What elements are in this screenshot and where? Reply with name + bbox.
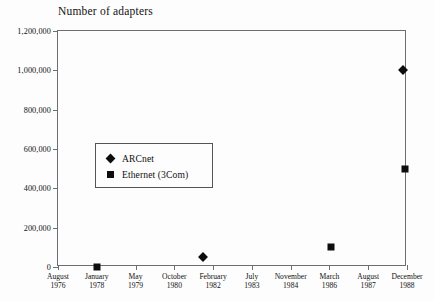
- x-axis-tick-month: March: [320, 272, 340, 281]
- y-axis-tick: [53, 70, 58, 71]
- x-axis-tick-label: August1976: [47, 272, 69, 290]
- x-axis-tick: [136, 265, 137, 270]
- legend-item-label: Ethernet (3Com): [122, 169, 188, 180]
- x-axis-tick-year: 1976: [47, 281, 69, 290]
- x-axis-tick-year: 1988: [391, 281, 422, 290]
- legend-item-ethernet: Ethernet (3Com): [107, 168, 188, 180]
- x-axis-tick-label: August1987: [357, 272, 379, 290]
- x-axis-tick-label: July1983: [244, 272, 259, 290]
- x-axis-tick-month: July: [244, 272, 259, 281]
- x-axis-tick-label: January1978: [85, 272, 109, 290]
- x-axis-tick: [329, 265, 330, 270]
- data-point-square: [328, 244, 335, 251]
- chart-legend: ARCnet Ethernet (3Com): [95, 143, 213, 188]
- x-axis-tick: [368, 265, 369, 270]
- x-axis-tick-month: August: [47, 272, 69, 281]
- y-axis-tick-label: 1,200,000: [17, 27, 51, 36]
- x-axis-tick-label: November1984: [275, 272, 307, 290]
- y-axis-tick-label: 1,000,000: [17, 66, 51, 75]
- x-axis-tick-year: 1983: [244, 281, 259, 290]
- x-axis-tick-year: 1978: [85, 281, 109, 290]
- x-axis-tick-label: March1986: [320, 272, 340, 290]
- y-axis-tick-label: 0: [47, 263, 51, 272]
- x-axis-tick-label: May1979: [128, 272, 143, 290]
- y-axis-tick: [53, 149, 58, 150]
- y-axis-tick-label: 400,000: [24, 184, 51, 193]
- x-axis-tick: [252, 265, 253, 270]
- diamond-marker-icon: [106, 153, 116, 163]
- square-marker-icon: [107, 171, 114, 178]
- x-axis-tick-label: October1980: [162, 272, 186, 290]
- data-point-square: [93, 264, 100, 271]
- x-axis-tick-month: February: [199, 272, 226, 281]
- x-axis-tick: [291, 265, 292, 270]
- data-point-diamond: [398, 65, 408, 75]
- x-axis-tick: [58, 265, 59, 270]
- x-axis-tick-year: 1980: [162, 281, 186, 290]
- x-axis-tick-year: 1984: [275, 281, 307, 290]
- x-axis-tick: [407, 265, 408, 270]
- x-axis-tick-label: December1988: [391, 272, 422, 290]
- x-axis-tick-year: 1982: [199, 281, 226, 290]
- y-axis-tick-label: 600,000: [24, 145, 51, 154]
- x-axis-tick: [213, 265, 214, 270]
- x-axis-tick-label: February1982: [199, 272, 226, 290]
- y-axis-tick: [53, 31, 58, 32]
- x-axis-tick-month: August: [357, 272, 379, 281]
- x-axis-tick-month: November: [275, 272, 307, 281]
- x-axis-tick-year: 1986: [320, 281, 340, 290]
- legend-item-arcnet: ARCnet: [107, 152, 154, 164]
- legend-item-label: ARCnet: [122, 153, 154, 164]
- y-axis-tick-label: 200,000: [24, 223, 51, 232]
- chart-title: Number of adapters: [58, 5, 153, 17]
- y-axis-tick: [53, 188, 58, 189]
- x-axis-tick-year: 1979: [128, 281, 143, 290]
- y-axis-tick: [53, 110, 58, 111]
- data-point-diamond: [198, 252, 208, 262]
- x-axis-tick-month: October: [162, 272, 186, 281]
- x-axis-tick-year: 1987: [357, 281, 379, 290]
- x-axis-tick: [174, 265, 175, 270]
- x-axis-tick-month: January: [85, 272, 109, 281]
- y-axis-tick: [53, 228, 58, 229]
- y-axis-tick-label: 800,000: [24, 105, 51, 114]
- adapters-scatter-chart: Number of adapters 1,200,0001,000,000800…: [0, 0, 434, 301]
- x-axis-tick-month: May: [128, 272, 143, 281]
- data-point-square: [402, 165, 409, 172]
- x-axis-tick-month: December: [391, 272, 422, 281]
